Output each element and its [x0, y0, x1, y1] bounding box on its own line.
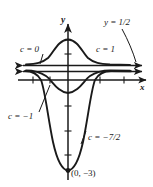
label-c-equals-zero: c = 0: [20, 45, 39, 54]
label-c-equals-one: c = 1: [96, 45, 115, 54]
label-c-equals-minus-seven-halves: c = −7/2: [88, 133, 120, 142]
leader-c-minus-one: [39, 85, 50, 112]
figure-canvas: [0, 0, 153, 187]
label-asymptote-y-equals-half: y = 1/2: [104, 18, 130, 27]
math-figure: y x c = 0 c = 1 c = −1 c = −7/2 y = 1/2 …: [0, 0, 153, 187]
label-c-equals-minus-one: c = −1: [8, 112, 33, 121]
point-marker-0-minus3: [66, 168, 71, 173]
y-axis-label: y: [61, 16, 65, 26]
leader-asymptote: [122, 29, 136, 62]
marked-point-group: [66, 168, 71, 173]
curve-c-equals-minus-seven-halves: [25, 71, 131, 171]
x-axis-label: x: [140, 83, 145, 92]
curves-group: [25, 40, 131, 171]
leader-lines-group: [39, 29, 136, 144]
label-point-0-minus3: (0, −3): [71, 169, 96, 178]
